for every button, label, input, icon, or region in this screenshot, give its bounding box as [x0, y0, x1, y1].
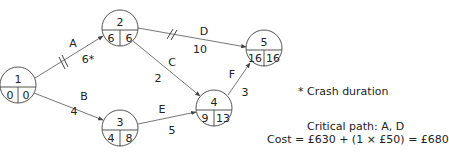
node-2-earliest: 6	[108, 32, 115, 45]
edge-b: B 4	[34, 90, 103, 120]
edge-c-activity: C	[168, 56, 176, 69]
edge-e-duration: 5	[169, 124, 176, 137]
node-5-id: 5	[261, 36, 268, 49]
edge-f-activity: F	[229, 68, 235, 81]
edge-e-activity: E	[159, 103, 166, 116]
node-3-latest: 8	[126, 132, 133, 145]
edge-d-activity: D	[200, 25, 208, 38]
edge-f: F 3	[228, 63, 250, 99]
node-3: 3 4 8	[102, 110, 138, 146]
node-1-latest: 0	[23, 89, 30, 102]
node-1-earliest: 0	[7, 89, 14, 102]
crash-duration-footnote: * Crash duration	[298, 85, 388, 98]
node-4-earliest: 9	[202, 112, 209, 125]
critical-path-note: Critical path: A, D	[307, 120, 404, 133]
edge-c: C 2	[133, 41, 200, 96]
edge-b-duration: 4	[71, 105, 78, 118]
edge-b-activity: B	[80, 90, 88, 103]
edge-f-duration: 3	[242, 86, 249, 99]
edge-a: A 6*	[35, 36, 103, 78]
node-4-id: 4	[211, 96, 218, 109]
node-2: 2 6 6	[102, 10, 138, 46]
node-5-latest: 16	[266, 52, 280, 65]
edge-d-duration: 10	[193, 43, 207, 56]
node-2-id: 2	[117, 16, 124, 29]
edge-a-duration: 6*	[82, 53, 95, 66]
node-2-latest: 6	[126, 32, 133, 45]
node-3-earliest: 4	[108, 132, 115, 145]
node-4: 4 9 13	[196, 90, 232, 126]
node-1-id: 1	[15, 73, 22, 86]
edge-a-activity: A	[69, 37, 77, 50]
edge-d: D 10	[138, 25, 246, 56]
cost-note: Cost = £630 + (1 × £50) = £680	[267, 133, 449, 146]
edge-e: E 5	[138, 103, 196, 137]
node-1: 1 0 0	[0, 67, 36, 103]
node-5: 5 16 16	[246, 30, 282, 66]
edge-c-duration: 2	[155, 72, 162, 85]
node-3-id: 3	[117, 116, 124, 129]
node-5-earliest: 16	[248, 52, 262, 65]
node-4-latest: 13	[216, 112, 230, 125]
